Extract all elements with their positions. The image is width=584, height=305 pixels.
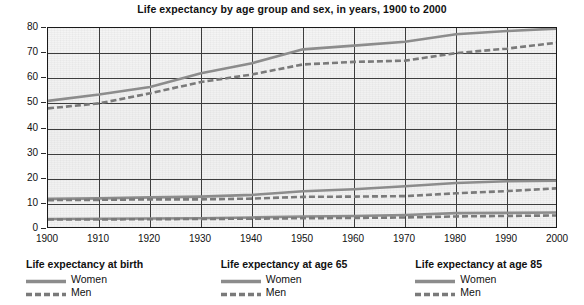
y-axis-tick-label: 70 bbox=[8, 47, 38, 57]
dashed-line-icon bbox=[415, 286, 455, 297]
x-axis-tick-label: 1920 bbox=[126, 233, 172, 244]
x-axis-tick-label: 1980 bbox=[432, 233, 478, 244]
legend-group: Life expectancy at age 65WomenMen bbox=[195, 258, 390, 305]
series-line bbox=[48, 43, 557, 109]
solid-line-icon bbox=[26, 273, 66, 284]
y-axis-tick-label: 50 bbox=[8, 97, 38, 107]
series-layer bbox=[48, 28, 557, 228]
plot-area bbox=[47, 27, 557, 228]
legend-group: Life expectancy at birthWomenMen bbox=[0, 258, 195, 305]
y-axis-tick-mark bbox=[41, 77, 46, 78]
dashed-line-icon bbox=[221, 286, 261, 297]
life-expectancy-chart: Life expectancy by age group and sex, in… bbox=[0, 0, 584, 305]
legend-item[interactable]: Men bbox=[415, 285, 480, 298]
legend-item-label: Men bbox=[460, 286, 480, 298]
y-axis-tick-label: 40 bbox=[8, 123, 38, 133]
y-axis-tick-label: 0 bbox=[8, 223, 38, 233]
solid-line-icon bbox=[221, 273, 261, 284]
x-axis-tick-label: 1910 bbox=[75, 233, 121, 244]
y-axis-tick-label: 80 bbox=[8, 22, 38, 32]
legend-item-label: Women bbox=[71, 273, 107, 285]
y-axis-tick-mark bbox=[41, 228, 46, 229]
series-line bbox=[48, 29, 557, 101]
x-axis-tick-label: 1950 bbox=[279, 233, 325, 244]
dashed-line-icon bbox=[26, 286, 66, 297]
legend-item[interactable]: Men bbox=[221, 285, 286, 298]
chart-legend: Life expectancy at birthWomenMenLife exp… bbox=[0, 258, 584, 305]
legend-item-label: Women bbox=[266, 273, 302, 285]
chart-title: Life expectancy by age group and sex, in… bbox=[0, 3, 584, 15]
x-axis-tick-label: 1960 bbox=[330, 233, 376, 244]
y-axis-tick-label: 10 bbox=[8, 198, 38, 208]
y-axis-tick-mark bbox=[41, 102, 46, 103]
legend-item[interactable]: Women bbox=[221, 272, 302, 285]
y-axis-tick-mark bbox=[41, 203, 46, 204]
legend-item[interactable]: Men bbox=[26, 285, 91, 298]
y-axis-tick-mark bbox=[41, 27, 46, 28]
legend-group-title: Life expectancy at birth bbox=[26, 258, 143, 270]
y-axis-tick-mark bbox=[41, 178, 46, 179]
legend-group-title: Life expectancy at age 65 bbox=[221, 258, 348, 270]
y-axis-tick-label: 30 bbox=[8, 148, 38, 158]
x-axis-tick-label: 1930 bbox=[177, 233, 223, 244]
y-axis-tick-label: 60 bbox=[8, 72, 38, 82]
y-axis-tick-mark bbox=[41, 153, 46, 154]
legend-group: Life expectancy at age 85WomenMen bbox=[389, 258, 584, 305]
x-axis-tick-label: 2000 bbox=[534, 233, 580, 244]
legend-item-label: Men bbox=[71, 286, 91, 298]
legend-item[interactable]: Women bbox=[415, 272, 496, 285]
legend-item-label: Women bbox=[460, 273, 496, 285]
x-axis-tick-label: 1900 bbox=[24, 233, 70, 244]
y-axis-tick-label: 20 bbox=[8, 173, 38, 183]
x-axis-tick-label: 1940 bbox=[228, 233, 274, 244]
legend-item[interactable]: Women bbox=[26, 272, 107, 285]
legend-group-title: Life expectancy at age 85 bbox=[415, 258, 542, 270]
x-axis-tick-label: 1970 bbox=[381, 233, 427, 244]
y-axis-tick-mark bbox=[41, 128, 46, 129]
solid-line-icon bbox=[415, 273, 455, 284]
x-axis-tick-label: 1990 bbox=[483, 233, 529, 244]
legend-item-label: Men bbox=[266, 286, 286, 298]
y-axis-tick-mark bbox=[41, 52, 46, 53]
